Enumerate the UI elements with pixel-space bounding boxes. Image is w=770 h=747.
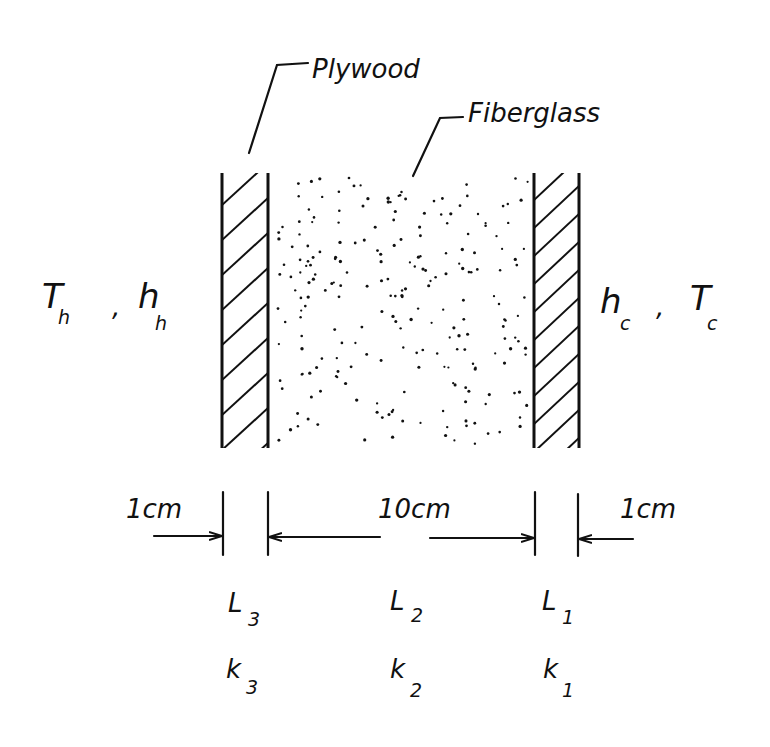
layer-2-length: L [390, 586, 405, 616]
right-thickness-label: 1cm [620, 494, 676, 524]
layer-3-conductivity: k [226, 654, 242, 684]
composite-wall-diagram: Plywood Fiberglass [0, 0, 770, 747]
hot-temperature-subscript: h [58, 306, 70, 328]
right-plywood-layer [534, 158, 579, 480]
hatch-pattern-right [534, 158, 579, 480]
cold-separator: , [656, 292, 664, 322]
layer-1-conductivity: k [543, 654, 559, 684]
dimension-lines: 1cm 10cm 1cm [126, 492, 676, 556]
cold-side-conditions: h c , T c [600, 278, 718, 334]
layer-3-length-subscript: 3 [248, 608, 260, 630]
hot-convection-subscript: h [155, 312, 167, 334]
left-plywood-layer [222, 163, 268, 485]
layer-1-conductivity-subscript: 1 [562, 679, 574, 701]
fiberglass-stipple-pattern [277, 177, 529, 445]
hot-side-conditions: T h , h h [42, 276, 167, 334]
plywood-callout: Plywood [249, 54, 420, 153]
plywood-leader-line [249, 63, 308, 153]
cold-convection-subscript: c [620, 312, 631, 334]
hot-separator: , [112, 292, 120, 322]
cold-convection-coefficient: h [600, 281, 622, 321]
layer-2-length-subscript: 2 [411, 604, 423, 626]
fiberglass-leader-line [413, 117, 463, 176]
fiberglass-callout: Fiberglass [413, 98, 600, 176]
plywood-label: Plywood [312, 54, 420, 84]
fiberglass-label: Fiberglass [468, 98, 600, 128]
layer-symbols: L 3 k 3 L 2 k 2 L 1 k 1 [226, 586, 574, 701]
layer-3-conductivity-subscript: 3 [246, 676, 258, 698]
layer-1-length: L [542, 586, 557, 616]
middle-thickness-label: 10cm [378, 494, 451, 524]
layer-3-length: L [228, 588, 243, 618]
cold-temperature-subscript: c [707, 312, 718, 334]
layer-2-conductivity: k [390, 654, 406, 684]
left-thickness-label: 1cm [126, 494, 182, 524]
layer-2-conductivity-subscript: 2 [410, 679, 422, 701]
hatch-pattern-left [222, 163, 268, 485]
hot-convection-coefficient: h [138, 276, 160, 316]
layer-1-length-subscript: 1 [562, 606, 574, 628]
